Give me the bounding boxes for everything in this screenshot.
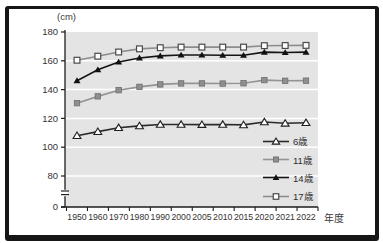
svg-text:2005: 2005 xyxy=(192,212,211,222)
legend-label: 17歳 xyxy=(293,189,314,203)
svg-text:2015: 2015 xyxy=(234,212,253,222)
svg-text:2000: 2000 xyxy=(171,212,190,222)
line-chart: 0801001201401601801950196019701980199020… xyxy=(0,0,383,243)
svg-text:100: 100 xyxy=(42,141,58,152)
legend-item-11歳: 11歳 xyxy=(263,150,314,168)
svg-text:2021: 2021 xyxy=(276,212,295,222)
legend-marker-square-filled xyxy=(263,154,289,165)
svg-text:80: 80 xyxy=(47,170,58,181)
legend-label: 14歳 xyxy=(293,171,314,185)
svg-text:180: 180 xyxy=(42,26,58,37)
legend-marker-triangle-filled xyxy=(263,172,289,183)
svg-text:2022: 2022 xyxy=(296,212,315,222)
svg-text:120: 120 xyxy=(42,113,58,124)
x-axis-unit-label: 年度 xyxy=(324,210,344,225)
x-axis-ticks: 1950196019701980199020002005201020152020… xyxy=(67,207,319,222)
svg-text:0: 0 xyxy=(53,201,58,212)
screenshot-canvas: (cm) 08010012014016018019501960197019801… xyxy=(0,0,383,243)
chart-legend: 6歳11歳14歳17歳 xyxy=(263,132,314,206)
y-axis-ticks: 080100120140160180 xyxy=(42,26,65,212)
legend-marker-triangle-open xyxy=(263,136,289,147)
svg-text:1970: 1970 xyxy=(109,212,128,222)
legend-item-6歳: 6歳 xyxy=(263,132,314,150)
svg-text:1980: 1980 xyxy=(130,212,149,222)
svg-text:2020: 2020 xyxy=(255,212,274,222)
legend-item-14歳: 14歳 xyxy=(263,169,314,187)
legend-label: 11歳 xyxy=(293,153,313,167)
svg-text:140: 140 xyxy=(42,84,58,95)
legend-marker-square-open xyxy=(263,191,289,202)
svg-text:160: 160 xyxy=(42,55,58,66)
svg-text:1990: 1990 xyxy=(151,212,170,222)
svg-text:1960: 1960 xyxy=(88,212,107,222)
legend-label: 6歳 xyxy=(293,134,308,148)
svg-text:1950: 1950 xyxy=(67,212,86,222)
legend-item-17歳: 17歳 xyxy=(263,187,314,205)
svg-text:2010: 2010 xyxy=(213,212,232,222)
